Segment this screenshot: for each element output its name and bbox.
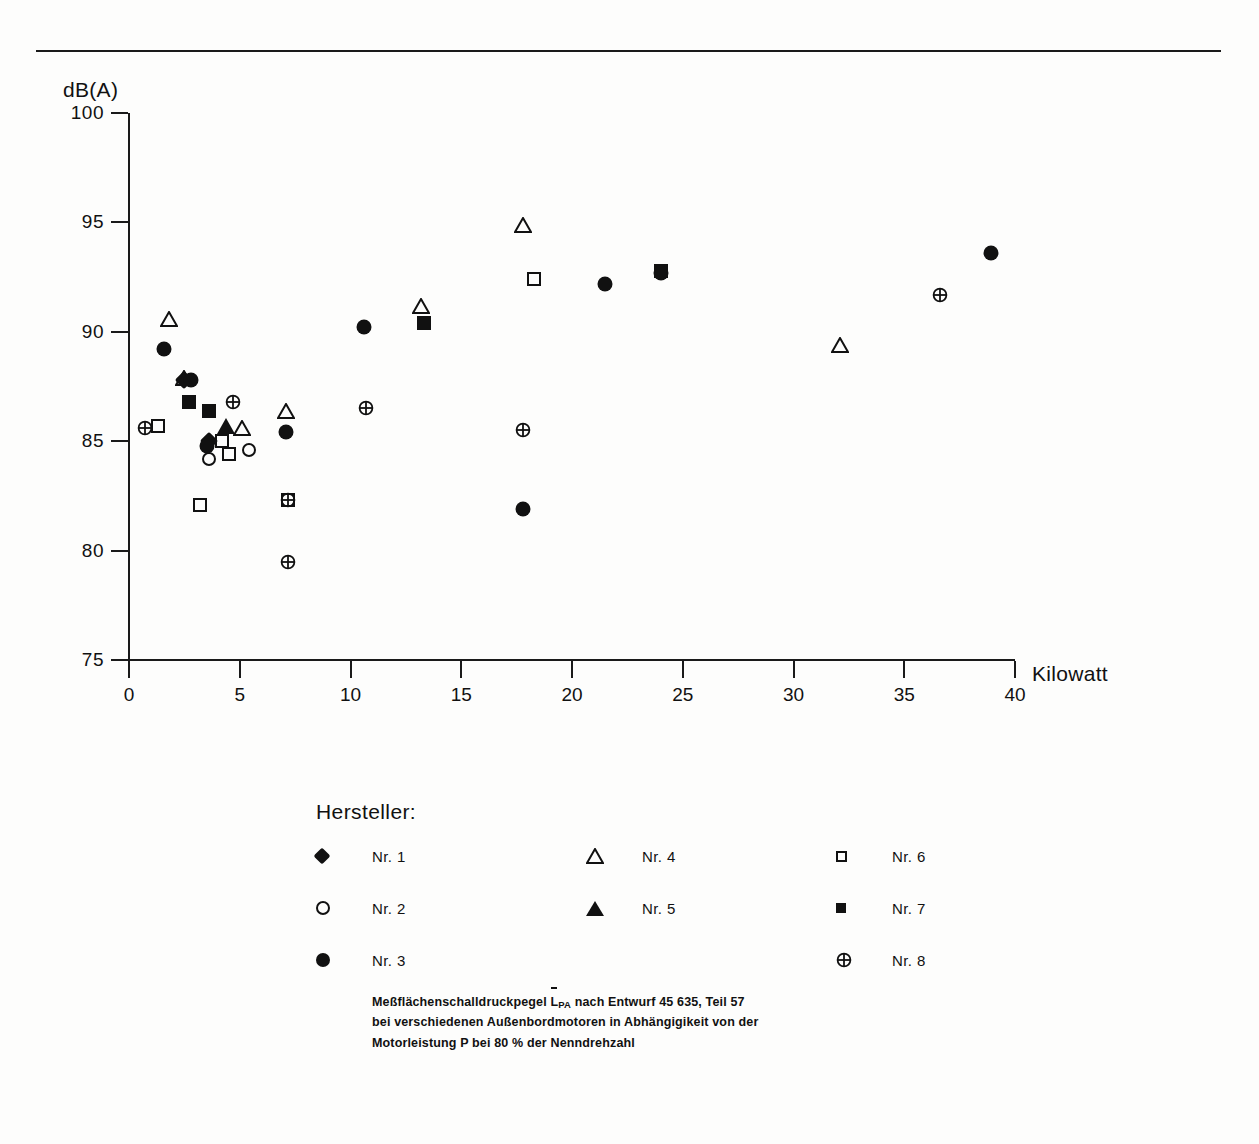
data-point	[151, 419, 165, 433]
data-point	[202, 452, 216, 466]
circle-crossed-marker	[836, 952, 852, 968]
square-open-marker	[527, 272, 541, 286]
y-tick-mark	[111, 331, 128, 333]
symbol-subscript: PA	[558, 999, 571, 1010]
overline-symbol: L	[550, 992, 558, 1012]
x-tick-label: 0	[124, 684, 135, 706]
x-tick-label: 20	[561, 684, 582, 706]
data-point	[242, 443, 256, 457]
circle-filled-marker	[316, 953, 330, 967]
triangle-filled-marker	[586, 901, 604, 916]
circle-filled-marker	[157, 342, 172, 357]
symbol-L: L	[550, 995, 558, 1009]
square-filled-marker	[202, 404, 216, 418]
data-point	[175, 370, 193, 386]
y-tick-label: 80	[82, 540, 104, 562]
data-point	[137, 420, 153, 436]
triangle-open-marker	[233, 420, 251, 436]
legend-label: Nr. 3	[372, 952, 406, 969]
data-point	[233, 420, 251, 436]
circle-filled-marker	[516, 502, 531, 517]
triangle-open-marker	[586, 848, 604, 864]
data-point	[182, 395, 196, 409]
x-tick-mark	[1014, 661, 1016, 678]
legend-marker	[316, 898, 342, 918]
y-tick-label: 95	[82, 211, 104, 233]
y-tick-mark	[111, 550, 128, 552]
x-tick-mark	[239, 661, 241, 678]
legend-marker	[586, 898, 612, 918]
circle-crossed-marker	[280, 554, 296, 570]
legend-item[interactable]: Nr. 3	[316, 950, 406, 970]
triangle-open-marker	[175, 370, 193, 386]
square-open-marker	[836, 851, 847, 862]
triangle-filled-marker	[217, 418, 235, 434]
legend-label: Nr. 7	[892, 900, 926, 917]
square-filled-marker	[836, 903, 846, 913]
square-open-marker	[151, 419, 165, 433]
y-tick-mark	[111, 112, 128, 114]
x-tick-label: 15	[451, 684, 472, 706]
square-open-marker	[193, 498, 207, 512]
circle-crossed-marker	[358, 400, 374, 416]
data-point	[412, 298, 430, 314]
data-point	[277, 403, 295, 419]
data-point	[527, 272, 541, 286]
legend-item[interactable]: Nr. 2	[316, 898, 406, 918]
overline-bar	[551, 987, 557, 989]
x-tick-mark	[571, 661, 573, 678]
chart-page: dB(A) Kilowatt 1009590858075 05101520253…	[0, 0, 1259, 1144]
circle-crossed-marker	[225, 394, 241, 410]
circle-crossed-marker	[280, 492, 296, 508]
y-tick-mark	[111, 221, 128, 223]
data-point	[516, 502, 531, 517]
x-tick-label: 35	[894, 684, 915, 706]
legend-label: Nr. 8	[892, 952, 926, 969]
data-point	[598, 276, 613, 291]
x-tick-label: 30	[783, 684, 804, 706]
legend-item[interactable]: Nr. 6	[836, 846, 926, 866]
data-point	[654, 264, 668, 278]
scatter-plot: dB(A) Kilowatt 1009590858075 05101520253…	[0, 0, 1259, 760]
caption-line-1-b: nach Entwurf 45 635, Teil 57	[571, 995, 745, 1009]
data-point	[356, 320, 371, 335]
circle-open-marker	[202, 452, 216, 466]
legend-marker	[586, 846, 612, 866]
legend-marker	[836, 846, 862, 866]
y-axis-title: dB(A)	[63, 78, 118, 102]
data-point	[280, 554, 296, 570]
legend-title: Hersteller:	[316, 800, 956, 824]
caption-line-1: Meßflächenschalldruckpegel LPA nach Entw…	[372, 992, 842, 1012]
circle-open-marker	[316, 901, 330, 915]
circle-filled-marker	[983, 246, 998, 261]
circle-open-marker	[242, 443, 256, 457]
x-tick-mark	[460, 661, 462, 678]
legend-item[interactable]: Nr. 5	[586, 898, 676, 918]
legend-item[interactable]: Nr. 7	[836, 898, 926, 918]
legend-item[interactable]: Nr. 4	[586, 846, 676, 866]
data-point	[983, 246, 998, 261]
legend-marker	[316, 950, 342, 970]
data-point	[222, 447, 236, 461]
data-point	[217, 418, 235, 434]
x-tick-label: 5	[234, 684, 245, 706]
square-open-marker	[222, 447, 236, 461]
legend-label: Nr. 1	[372, 848, 406, 865]
triangle-open-marker	[160, 311, 178, 327]
x-tick-label: 10	[340, 684, 361, 706]
triangle-open-marker	[412, 298, 430, 314]
data-point	[280, 492, 296, 508]
legend-label: Nr. 2	[372, 900, 406, 917]
legend-item[interactable]: Nr. 1	[316, 846, 406, 866]
y-tick-label: 100	[71, 102, 104, 124]
caption-line-2: bei verschiedenen Außenbordmotoren in Ab…	[372, 1012, 842, 1032]
legend-label: Nr. 5	[642, 900, 676, 917]
data-point	[193, 498, 207, 512]
triangle-open-marker	[514, 217, 532, 233]
x-tick-label: 25	[672, 684, 693, 706]
legend-marker	[836, 898, 862, 918]
circle-filled-marker	[598, 276, 613, 291]
legend-marker	[836, 950, 862, 970]
legend-item[interactable]: Nr. 8	[836, 950, 926, 970]
legend-marker	[316, 846, 342, 866]
